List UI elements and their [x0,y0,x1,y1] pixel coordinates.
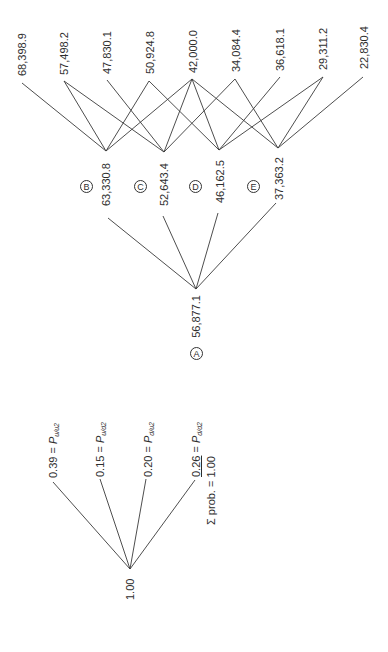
node-a: A 56,877.1 [190,295,203,360]
left-root-label: 1.00 [124,579,136,600]
prob-value: 0.20 [142,456,154,477]
leaf-value: 22,830.4 [358,26,370,69]
prob-value: 0.39 [47,457,59,478]
sum-prob-label: Σ prob. = 1.00 [205,456,217,525]
node-b-letter: B [80,180,93,193]
leaf-value: 42,000.0 [187,30,199,73]
node-e-letter: E [247,180,260,193]
node-letter-circle: A [190,347,203,360]
prob-label-ud: 0.15 = Pu/d2 [94,422,110,477]
prob-label-du: 0.20 = Pd/u2 [142,422,158,477]
node-value: 56,877.1 [190,295,202,338]
node-d-value: 46,162.5 [214,160,226,203]
leaf-edges [22,77,363,152]
node-c-letter: C [134,180,147,193]
leaf-value: 68,398.9 [16,33,28,76]
root-a-edges [108,203,276,289]
prob-label-dd: 0.26 = Pd/d2 [190,422,206,477]
leaf-value: 50,924.8 [144,31,156,74]
prob-label-uu: 0.39 = Pu/u2 [47,423,63,478]
leaf-value: 57,498.2 [58,32,70,75]
leaf-value: 34,084.4 [230,29,242,72]
left-tree-edges [53,479,195,569]
node-e-value: 37,363.2 [273,157,285,200]
leaf-value: 29,311.2 [317,28,329,70]
node-b-value: 63,330.8 [100,163,112,206]
prob-value: 0.26 [190,456,202,477]
prob-value: 0.15 [94,456,106,477]
leaf-value: 36,618.1 [274,28,286,71]
leaf-value: 47,830.1 [101,31,113,74]
node-d-letter: D [189,180,202,193]
node-c-value: 52,643.4 [158,163,170,206]
